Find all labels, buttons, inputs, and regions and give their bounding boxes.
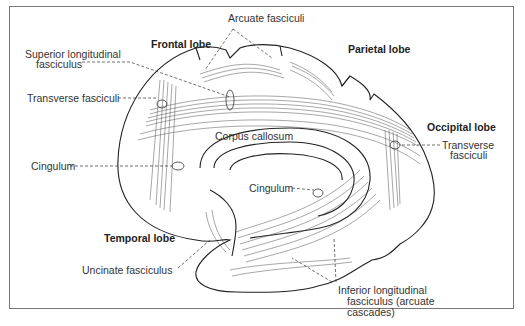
- leader-ilf-a: [292, 258, 332, 282]
- label-arcuate-fasciculi: Arcuate fasciculi: [228, 13, 304, 24]
- leader-cingulum-center: [292, 188, 314, 190]
- label-superior-longitudinal-fasciculus-2: fasciculus: [36, 59, 82, 70]
- label-temporal-lobe: Temporal lobe: [104, 233, 175, 244]
- label-frontal-lobe: Frontal lobe: [151, 39, 211, 50]
- label-cingulum-center: Cingulum: [249, 183, 293, 194]
- label-parietal-lobe: Parietal lobe: [348, 44, 410, 55]
- label-occipital-lobe: Occipital lobe: [427, 122, 496, 133]
- leader-arcuate-b: [233, 29, 272, 58]
- label-transverse-fasciculi-right-2: fasciculi: [450, 150, 487, 161]
- label-inferior-longitudinal-fasciculus-3: cascades): [347, 307, 395, 318]
- label-transverse-fasciculi-left: Transverse fasciculi: [27, 93, 119, 104]
- leader-ilf-b: [334, 238, 336, 282]
- label-corpus-callosum: Corpus callosum: [215, 131, 293, 142]
- label-uncinate-fasciculus: Uncinate fasciculus: [82, 265, 172, 276]
- label-cingulum-left: Cingulum: [31, 161, 75, 172]
- hemisphere-outline: [118, 45, 435, 293]
- leader-uncinate: [178, 240, 210, 268]
